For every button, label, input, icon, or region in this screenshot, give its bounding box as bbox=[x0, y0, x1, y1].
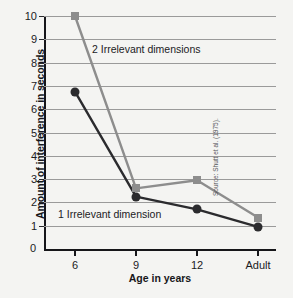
x-axis-tick-label: 12 bbox=[191, 259, 203, 271]
y-axis-zero-label: 0 bbox=[30, 242, 36, 254]
x-axis-tick-label: 9 bbox=[133, 259, 139, 271]
data-point-marker bbox=[254, 214, 262, 222]
x-axis-tick-mark bbox=[74, 249, 76, 256]
x-axis-tick-label: Adult bbox=[245, 259, 270, 271]
source-credit: Source: Shutt et al. (1975). bbox=[212, 66, 219, 196]
y-axis-tick-label: 8 bbox=[31, 57, 37, 69]
x-axis-tick-mark bbox=[257, 249, 259, 256]
data-point-marker bbox=[71, 12, 79, 20]
y-axis-tick-label: 10 bbox=[25, 10, 37, 22]
x-axis-tick-mark bbox=[135, 249, 137, 256]
y-axis-tick-label: 7 bbox=[31, 80, 37, 92]
y-axis-tick-label: 1 bbox=[31, 220, 37, 232]
y-axis-tick-label: 4 bbox=[31, 150, 37, 162]
x-axis-tick-label: 6 bbox=[72, 259, 78, 271]
annotation-one-irrelevant-dimension: 1 Irrelevant dimension bbox=[58, 208, 161, 220]
x-axis-title: Age in years bbox=[44, 272, 276, 284]
chart-figure: Amount of interference in seconds 0 1234… bbox=[0, 0, 293, 298]
x-axis-tick-mark bbox=[196, 249, 198, 256]
y-axis-tick-label: 6 bbox=[31, 103, 37, 115]
data-point-marker bbox=[132, 192, 141, 201]
y-axis-tick-label: 9 bbox=[31, 33, 37, 45]
x-axis-line bbox=[44, 249, 276, 251]
data-point-marker bbox=[71, 87, 80, 96]
y-axis-tick-label: 5 bbox=[31, 127, 37, 139]
data-point-marker bbox=[193, 176, 201, 184]
y-axis-tick-label: 2 bbox=[31, 196, 37, 208]
y-axis-tick-label: 3 bbox=[31, 173, 37, 185]
annotation-two-irrelevant-dimensions: 2 Irrelevant dimensions bbox=[92, 43, 201, 55]
series-line bbox=[75, 92, 258, 227]
data-point-marker bbox=[254, 222, 263, 231]
data-point-marker bbox=[193, 205, 202, 214]
